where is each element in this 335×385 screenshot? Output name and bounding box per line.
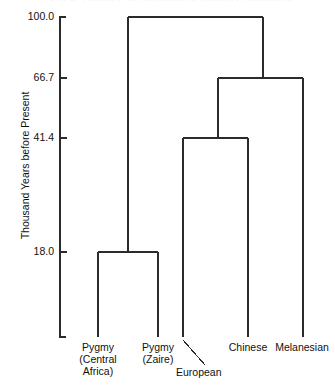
leaf-label-european: European	[176, 366, 238, 378]
y-axis-bracket	[60, 17, 66, 337]
leaf-label-line: Africa)	[68, 365, 128, 377]
leaf-label-line: Pygmy	[68, 341, 128, 353]
leaf-label-line: European	[176, 366, 238, 378]
dendrogram-plot	[0, 0, 335, 385]
dendrogram-figure: Genetic Distance Dendrogram of Human Pop…	[0, 0, 335, 385]
leaf-label-line: Melanesian	[269, 341, 335, 353]
leaf-label-pygmy-central-africa: Pygmy (Central Africa)	[68, 341, 128, 377]
leaf-label-melanesian: Melanesian	[269, 341, 335, 353]
leaf-label-line: Pygmy	[128, 341, 188, 353]
leaf-label-line: (Central	[68, 353, 128, 365]
leaf-label-line: (Zaire)	[128, 353, 188, 365]
leaf-label-pygmy-zaire: Pygmy (Zaire)	[128, 341, 188, 365]
